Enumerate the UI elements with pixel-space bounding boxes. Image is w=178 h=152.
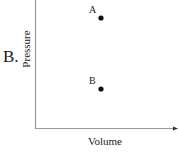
point-b-marker (98, 86, 103, 91)
point-b-label: B (89, 76, 96, 86)
point-a-label: A (89, 5, 96, 15)
x-axis-arrow-icon (173, 127, 178, 131)
point-a-marker (98, 15, 103, 20)
y-axis-label: Pressure (21, 30, 32, 67)
x-axis-label: Volume (88, 135, 122, 147)
